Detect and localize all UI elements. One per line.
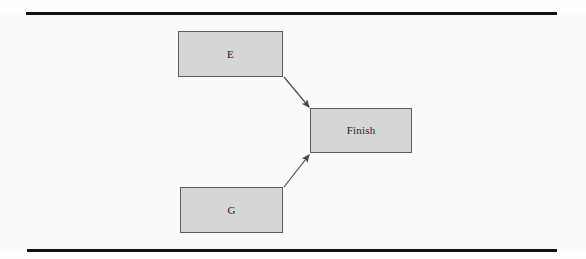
node-e[interactable]: E: [178, 31, 283, 77]
edge-e-to-finish: [284, 77, 309, 107]
node-e-label: E: [227, 49, 234, 60]
page: E Finish G: [0, 0, 586, 259]
edge-g-to-finish: [284, 155, 309, 187]
node-g[interactable]: G: [180, 187, 283, 233]
node-finish-label: Finish: [347, 125, 376, 136]
node-finish[interactable]: Finish: [310, 108, 412, 153]
node-g-label: G: [227, 205, 235, 216]
flowchart-diagram: E Finish G: [0, 0, 586, 259]
edge-layer: [0, 0, 586, 259]
